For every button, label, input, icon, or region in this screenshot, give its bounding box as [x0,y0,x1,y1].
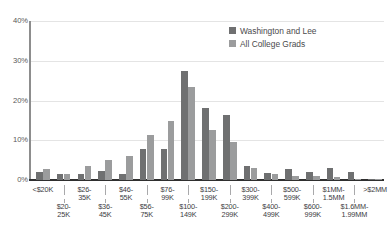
bar [64,174,71,180]
x-tick-connector [230,199,231,203]
bar [140,149,147,180]
bar [244,166,251,180]
x-tick-label: $56- 75K [125,203,169,220]
bar [161,149,168,180]
bar-group [36,21,50,180]
bar [306,172,313,180]
y-tick-20: 20% [2,97,28,105]
bar [168,121,175,180]
x-tick-connector [105,185,106,195]
bar [43,169,50,180]
bar [223,115,230,180]
bar [285,169,292,180]
bar [188,87,195,180]
legend-label: All College Grads [240,39,305,49]
bar [375,179,382,180]
x-tick-label: $1.6MM- 1.99MM [332,203,376,220]
bar-group [57,21,71,180]
x-tick-label: $36- 45K [83,203,127,220]
bar-group [161,21,175,180]
bar [36,172,43,180]
y-tick-10: 10% [2,136,28,144]
bar [209,130,216,180]
y-tick-40: 40% [2,17,28,25]
x-tick-label: $26- 35K [62,186,106,203]
x-tick-connector [230,185,231,195]
bar [126,156,133,180]
bar [292,176,299,180]
bar [85,166,92,180]
x-tick-connector [105,199,106,203]
bar [202,108,209,180]
x-tick-connector [313,185,314,195]
bar [327,168,334,180]
x-tick-label: $150- 199K [187,186,231,203]
bar-group [181,21,195,180]
bar [355,179,362,180]
x-tick-connector [313,199,314,203]
x-tick-connector [354,199,355,203]
bar [98,171,105,180]
bar-group [78,21,92,180]
bar-group [348,21,362,180]
bar-group [368,21,382,180]
household-income-distribution-chart: 40% 30% 20% 10% 0% Washington and Lee Al… [0,0,391,231]
x-tick-connector [188,199,189,203]
bar [57,174,64,180]
x-tick-label: >$2MM [353,186,391,194]
bars-layer [31,21,384,180]
x-tick-connector [64,185,65,195]
legend-item-all-college-grads: All College Grads [229,38,317,49]
bar [251,168,258,180]
x-tick-label: $600- 999K [291,203,335,220]
x-tick-label: $1MM- 1.5MM [312,186,356,203]
bar-group [140,21,154,180]
bar-group [202,21,216,180]
bar [119,174,126,180]
x-tick-connector [147,199,148,203]
bar [105,160,112,180]
legend-swatch-icon [229,40,236,47]
x-tick-label: $100- 149K [166,203,210,220]
x-tick-connector [354,185,355,195]
x-tick-connector [271,185,272,195]
x-tick-connector [64,199,65,203]
y-tick-30: 30% [2,57,28,65]
x-tick-label: $46- 55K [104,186,148,203]
x-tick-label: $200- 299K [208,203,252,220]
legend-item-washington-and-lee: Washington and Lee [229,25,317,36]
bar [368,179,375,180]
x-tick-label: $76- 99K [145,186,189,203]
bar [230,142,237,180]
bar [272,174,279,180]
legend-swatch-icon [229,27,236,34]
bar [264,173,271,180]
bar [334,177,341,180]
bar [78,174,85,180]
legend-label: Washington and Lee [240,26,317,36]
bar [348,172,355,180]
x-tick-label: $500- 599K [270,186,314,203]
x-tick-label: $400- 499K [249,203,293,220]
bar [313,176,320,180]
bar-group [119,21,133,180]
x-tick-label: $20- 25K [42,203,86,220]
bar-group [327,21,341,180]
bar [181,71,188,180]
chart-legend: Washington and Lee All College Grads [229,25,317,49]
y-axis-labels: 40% 30% 20% 10% 0% [0,0,28,231]
x-tick-connector [271,199,272,203]
x-tick-connector [147,185,148,195]
x-tick-connector [188,185,189,195]
y-tick-0: 0% [2,176,28,184]
bar-group [98,21,112,180]
x-tick-label: $300- 399K [229,186,273,203]
bar [147,135,154,180]
